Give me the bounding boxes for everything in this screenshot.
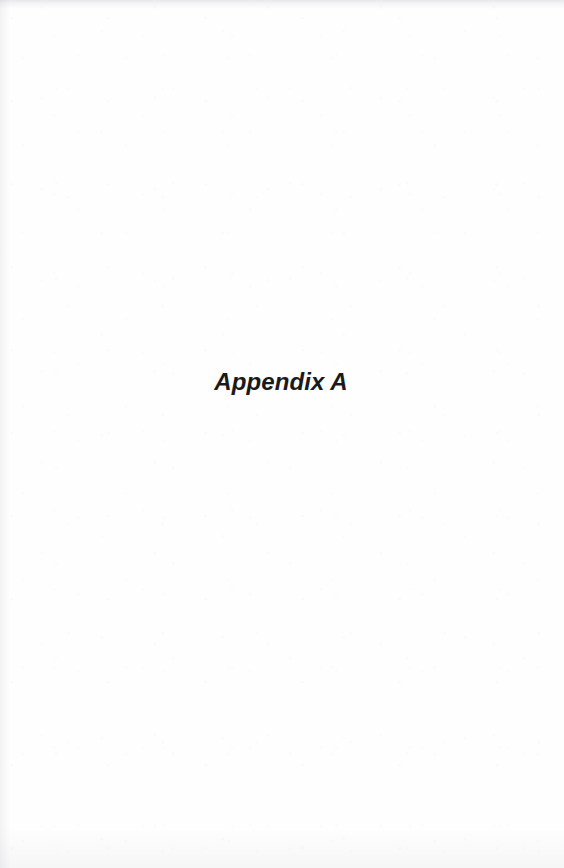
scan-edge-shadow-top bbox=[0, 0, 564, 9]
scan-edge-shadow-left bbox=[0, 0, 10, 868]
scan-grain-texture bbox=[0, 0, 564, 868]
scanned-page: Appendix A bbox=[0, 0, 564, 868]
scan-edge-shadow-bottom bbox=[0, 828, 564, 868]
appendix-title: Appendix A bbox=[0, 368, 563, 396]
